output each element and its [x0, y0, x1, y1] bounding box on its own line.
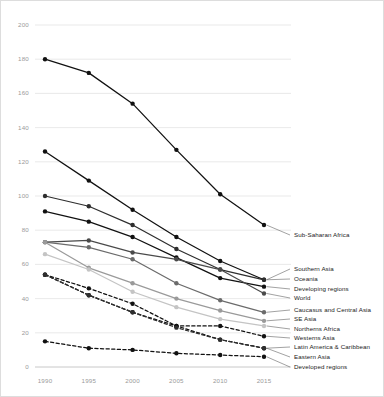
- y-tick-label: 160: [3, 89, 29, 96]
- data-point: [262, 291, 266, 295]
- data-point: [174, 281, 178, 285]
- data-point: [43, 194, 47, 198]
- data-point: [262, 310, 266, 314]
- label-leader-line: [267, 326, 290, 329]
- y-tick-label: 120: [3, 158, 29, 165]
- data-point: [218, 267, 222, 271]
- label-leader-line: [267, 293, 290, 298]
- data-point: [130, 250, 134, 254]
- label-leader-line: [267, 347, 290, 348]
- data-point: [87, 267, 91, 271]
- data-point: [130, 235, 134, 239]
- series-label: Caucasus and Central Asia: [294, 306, 371, 313]
- data-point: [218, 298, 222, 302]
- data-point: [218, 337, 222, 341]
- data-point: [43, 339, 47, 343]
- data-point: [87, 245, 91, 249]
- data-point: [218, 259, 222, 263]
- data-point: [262, 319, 266, 323]
- series-label: World: [294, 294, 311, 301]
- data-point: [87, 286, 91, 290]
- x-tick-label: 2005: [161, 377, 191, 384]
- label-leader-line: [267, 269, 290, 280]
- x-tick-label: 2015: [249, 377, 279, 384]
- series-line-8: [45, 275, 264, 337]
- y-tick-label: 0: [3, 363, 29, 370]
- data-point: [218, 353, 222, 357]
- data-point: [130, 310, 134, 314]
- series-line-5: [45, 242, 264, 312]
- data-point: [174, 325, 178, 329]
- data-point: [87, 219, 91, 223]
- data-point: [174, 235, 178, 239]
- data-point: [87, 71, 91, 75]
- series-label: Sub-Saharan Africa: [294, 231, 349, 238]
- data-point: [43, 240, 47, 244]
- y-tick-label: 140: [3, 124, 29, 131]
- label-leader-line: [267, 287, 290, 289]
- y-tick-label: 60: [3, 260, 29, 267]
- data-point: [130, 281, 134, 285]
- data-point: [130, 348, 134, 352]
- series-line-0: [45, 59, 264, 225]
- data-point: [174, 148, 178, 152]
- label-leader-line: [267, 336, 290, 338]
- label-leader-line: [267, 279, 290, 280]
- data-point: [262, 334, 266, 338]
- data-point: [87, 178, 91, 182]
- data-point: [130, 257, 134, 261]
- y-tick-label: 80: [3, 226, 29, 233]
- data-point: [43, 272, 47, 276]
- data-point: [87, 204, 91, 208]
- x-tick-label: 2010: [205, 377, 235, 384]
- data-point: [130, 207, 134, 211]
- y-tick-label: 20: [3, 329, 29, 336]
- data-point: [43, 252, 47, 256]
- data-point: [43, 149, 47, 153]
- series-label: Westerns Asia: [294, 334, 335, 341]
- chart-frame: 020406080100120140160180200 199019952000…: [0, 0, 384, 397]
- series-label: Southern Asia: [294, 265, 334, 272]
- data-point: [218, 324, 222, 328]
- label-leader-line: [267, 357, 290, 367]
- data-point: [218, 192, 222, 196]
- y-tick-label: 180: [3, 55, 29, 62]
- label-leader-line: [267, 319, 290, 321]
- data-point: [174, 305, 178, 309]
- series-line-6: [45, 242, 264, 321]
- data-point: [130, 290, 134, 294]
- series-label: Latin America & Caribbean: [294, 343, 370, 350]
- y-tick-label: 100: [3, 192, 29, 199]
- data-point: [87, 293, 91, 297]
- data-point: [174, 247, 178, 251]
- x-tick-label: 2000: [118, 377, 148, 384]
- data-point: [218, 308, 222, 312]
- series-line-1: [45, 152, 264, 280]
- label-leader-line: [267, 348, 290, 357]
- data-point: [174, 296, 178, 300]
- data-point: [262, 346, 266, 350]
- x-tick-label: 1990: [30, 377, 60, 384]
- data-point: [43, 57, 47, 61]
- series-line-2: [45, 196, 264, 280]
- data-point: [43, 209, 47, 213]
- data-point: [262, 324, 266, 328]
- series-label: Developed regions: [294, 363, 347, 370]
- data-point: [87, 346, 91, 350]
- series-label: Developing regions: [294, 285, 349, 292]
- data-point: [174, 351, 178, 355]
- data-point: [218, 276, 222, 280]
- series-label: Oceania: [294, 275, 318, 282]
- series-label: Eastern Asia: [294, 353, 330, 360]
- data-point: [262, 284, 266, 288]
- data-point: [218, 317, 222, 321]
- series-label: Northerns Africa: [294, 325, 340, 332]
- y-tick-label: 40: [3, 295, 29, 302]
- y-tick-label: 200: [3, 21, 29, 28]
- data-point: [130, 302, 134, 306]
- data-point: [262, 355, 266, 359]
- series-line-10: [45, 275, 264, 349]
- data-point: [262, 223, 266, 227]
- series-label: SE Asia: [294, 315, 316, 322]
- data-point: [174, 257, 178, 261]
